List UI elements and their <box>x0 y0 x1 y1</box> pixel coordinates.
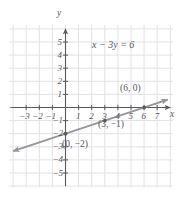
y-tick-label: 4 <box>58 51 63 60</box>
x-tick-label: 1 <box>76 112 81 121</box>
y-tick-label: 3 <box>58 64 63 73</box>
x-tick-label: 7 <box>155 112 160 121</box>
data-point-marker <box>142 106 146 110</box>
y-tick-label: −5 <box>53 169 64 178</box>
x-axis-label: x <box>170 110 174 120</box>
x-tick-label: 5 <box>129 112 134 121</box>
coordinate-plane <box>0 0 191 202</box>
y-tick-label: −1 <box>53 116 64 125</box>
data-point-label: (3, −1) <box>98 120 124 130</box>
x-tick-label: −2 <box>32 112 43 121</box>
x-tick-label: 6 <box>142 112 147 121</box>
data-point-label: (6, 0) <box>120 84 141 94</box>
y-axis-label: y <box>57 9 61 19</box>
data-point-marker <box>64 132 68 136</box>
y-tick-label: −2 <box>53 129 64 138</box>
equation-annotation: x − 3y = 6 <box>92 40 134 50</box>
graph-figure: −3−2−1123456754321−1−2−3−4−5 x y x − 3y … <box>0 0 191 202</box>
y-tick-label: 1 <box>58 90 63 99</box>
data-point-label: (0, −2) <box>62 140 88 150</box>
x-tick-label: −3 <box>19 112 30 121</box>
y-tick-label: 5 <box>58 38 63 47</box>
y-tick-label: 2 <box>58 77 63 86</box>
y-tick-label: −4 <box>53 155 64 164</box>
x-tick-label: 2 <box>89 112 94 121</box>
